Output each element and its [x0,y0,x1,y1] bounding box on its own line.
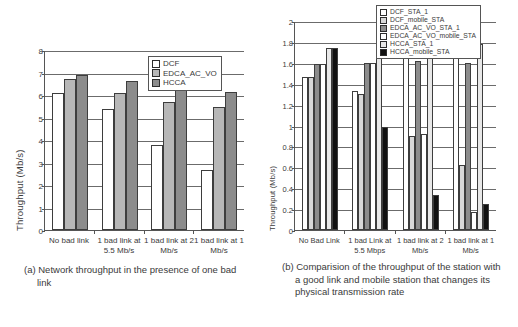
x-axis-category-label: 1 bad link at 1 Mb/s [446,236,497,256]
legend-label: EDCA_AC_VO_mobile_STA [390,32,476,40]
x-axis-tick-mark [395,230,396,234]
bar-HCCA [225,92,237,230]
legend-swatch-icon [152,79,160,87]
legend-label: HCCA_STA_1 [390,40,433,48]
figure-container: Throughput (Mb/s) 012345678 No bad link1… [0,0,518,327]
bar-HCCA_STA_1 [477,44,483,230]
panel-a-caption-text: (a) Network throughput in the presence o… [24,264,252,289]
panel-b-legend: DCF_STA_1DCF_mobile_STAEDCA_AC_VO_STA_1E… [376,5,481,59]
x-axis-tick-mark [94,230,95,234]
legend-item: EDCA_AC_VO_mobile_STA [380,32,476,40]
legend-swatch-icon [152,69,160,77]
bar-EDCA_AC_VO [163,102,175,230]
legend-swatch-icon [152,60,160,68]
bar-group [295,22,345,230]
bar-EDCA_AC_VO [64,79,76,230]
bar-DCF [151,145,163,231]
legend-swatch-icon [380,41,387,48]
legend-item: HCCA [152,78,217,88]
legend-label: HCCA [163,78,186,88]
bar-group [95,51,145,230]
bar-HCCA [126,81,138,230]
legend-item: DCF_STA_1 [380,8,476,16]
panel-b-y-axis-label: Throughput (Mb/s) [268,166,277,231]
x-axis-tick-mark [445,230,446,234]
x-axis-category-label: No Bad Link [294,236,345,256]
y-axis-tick-mark [42,231,45,232]
x-axis-category-label: 1 bad Link at 5.5 Mbps [345,236,396,256]
panel-a-caption: (a) Network throughput in the presence o… [24,264,252,289]
legend-item: DCF [152,59,217,69]
legend-swatch-icon [380,33,387,40]
panel-b-x-axis-labels: No Bad Link1 bad Link at 5.5 Mbps1 bad l… [294,236,496,256]
bar-HCCA_mobile_STA [332,48,338,230]
legend-swatch-icon [380,17,387,24]
panel-b-caption: (b) Comparision of the throughput of the… [282,261,502,299]
x-axis-tick-mark [193,230,194,234]
legend-item: HCCA_mobile_STA [380,48,476,56]
bar-EDCA_AC_VO [213,107,225,230]
bar-DCF [102,109,114,231]
bar-EDCA_AC_VO_STA_1 [465,63,471,230]
legend-label: DCF_mobile_STA [390,16,444,24]
panel-b: Throughput (Mb/s) 00.20.40.60.811.21.41.… [258,0,518,327]
bar-HCCA [76,75,88,230]
legend-swatch-icon [380,49,387,56]
legend-label: HCCA_mobile_STA [390,48,450,56]
legend-item: EDCA_AC_VO_STA_1 [380,24,476,32]
legend-label: EDCA_AC_VO_STA_1 [390,24,460,32]
panel-b-caption-text: (b) Comparision of the throughput of the… [282,261,502,299]
bar-HCCA_mobile_STA [382,127,388,230]
legend-item: EDCA_AC_VO [152,69,217,79]
legend-item: DCF_mobile_STA [380,16,476,24]
x-axis-tick-mark [344,230,345,234]
x-axis-category-label: 1 bad link at 2 Mb/s [395,236,446,256]
panel-a-legend: DCFEDCA_AC_VOHCCA [148,56,222,91]
bar-DCF [52,93,64,230]
panel-a-y-axis-label: Throughput (Mb/s) [14,149,25,231]
bar-HCCA [175,90,187,230]
legend-item: HCCA_STA_1 [380,40,476,48]
x-axis-category-label: 1 bad link at 5.5 Mb/s [94,236,144,256]
bar-group [45,51,95,230]
bar-EDCA_AC_VO [114,93,126,230]
legend-label: DCF_STA_1 [390,8,428,16]
legend-swatch-icon [380,25,387,32]
bar-HCCA_mobile_STA [483,204,489,230]
panel-a: Throughput (Mb/s) 012345678 No bad link1… [0,0,258,327]
x-axis-category-label: No bad link [44,236,94,256]
y-axis-tick-mark [292,231,295,232]
panel-a-x-axis-labels: No bad link1 bad link at 5.5 Mb/s1 bad l… [44,236,244,256]
legend-swatch-icon [380,9,387,16]
legend-label: DCF [163,59,179,69]
bar-HCCA_mobile_STA [433,195,439,230]
x-axis-category-label: 1 bad link at 1 Mb/s [194,236,244,256]
x-axis-tick-mark [144,230,145,234]
x-axis-category-label: 1 bad link at 2 Mb/s [144,236,194,256]
bar-DCF [201,170,213,230]
legend-label: EDCA_AC_VO [163,69,217,79]
